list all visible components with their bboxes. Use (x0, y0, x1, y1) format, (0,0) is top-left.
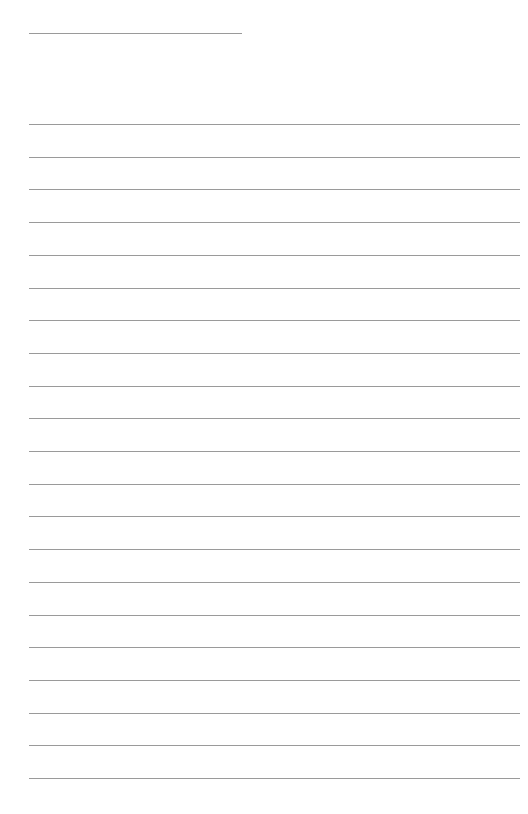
ruled-line (29, 386, 520, 387)
ruled-line (29, 288, 520, 289)
ruled-line (29, 680, 520, 681)
ruled-line (29, 222, 520, 223)
lined-paper-page (0, 0, 528, 814)
ruled-line (29, 124, 520, 125)
ruled-line (29, 353, 520, 354)
ruled-line (29, 778, 520, 779)
ruled-line (29, 255, 520, 256)
ruled-line (29, 189, 520, 190)
ruled-line (29, 451, 520, 452)
ruled-line (29, 320, 520, 321)
ruled-line (29, 745, 520, 746)
ruled-line (29, 516, 520, 517)
header-rule (29, 33, 242, 34)
ruled-line (29, 713, 520, 714)
ruled-line (29, 647, 520, 648)
ruled-line (29, 418, 520, 419)
ruled-line (29, 549, 520, 550)
ruled-line (29, 615, 520, 616)
ruled-line (29, 582, 520, 583)
ruled-line (29, 157, 520, 158)
ruled-line (29, 484, 520, 485)
